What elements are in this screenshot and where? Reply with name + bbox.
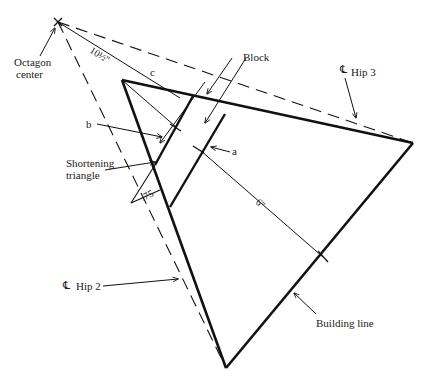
hip3-centerline <box>58 22 413 143</box>
octagon-center-label-1: Octagon <box>14 56 52 68</box>
c-dim-leader <box>160 82 205 143</box>
block-label: Block <box>243 51 270 63</box>
building-line-label: Building line <box>316 317 374 329</box>
hip2-leader <box>103 279 178 286</box>
c-label: c <box>150 66 155 78</box>
dim-10-5-label: 10½'' <box>88 44 112 65</box>
b-leader <box>97 124 162 137</box>
building-line-leader <box>294 293 316 314</box>
hip2-label: Hip 2 <box>76 280 101 292</box>
a-leader <box>211 147 230 152</box>
shortening-triangle-label-2: triangle <box>66 169 100 181</box>
hip3-symbol: ℄ <box>339 63 347 75</box>
block-right-side <box>170 114 225 207</box>
a-label: a <box>232 145 237 157</box>
building-line <box>226 143 413 368</box>
block-leader <box>207 58 232 94</box>
octagon-center-leader <box>40 28 55 56</box>
octagon-center-label-2: center <box>16 68 43 80</box>
block-right-extension <box>170 138 385 207</box>
hip2-symbol: ℄ <box>62 279 70 291</box>
hip-layout-diagram: Octagon center 10½'' c Block ℄ Hip 3 b a… <box>0 0 428 385</box>
hip3-label: Hip 3 <box>351 66 376 78</box>
shortening-triangle-label-1: Shortening <box>66 157 115 169</box>
hip3-leader <box>345 78 356 118</box>
dim-075-label: .75 <box>139 188 155 203</box>
b-label: b <box>86 118 92 130</box>
